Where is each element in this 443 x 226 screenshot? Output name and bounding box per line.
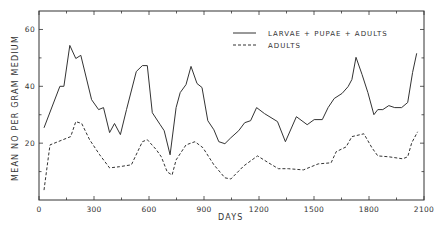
plot-frame — [39, 11, 424, 200]
y-tick-label: 60 — [25, 25, 35, 34]
legend-label-total: LARVAE + PUPAE + ADULTS — [268, 30, 388, 38]
x-tick-label: 1200 — [249, 205, 269, 214]
x-tick-label: 900 — [196, 205, 211, 214]
legend: LARVAE + PUPAE + ADULTS ADULTS — [233, 30, 388, 50]
series-line-total — [44, 45, 417, 154]
y-tick-label: 40 — [25, 82, 35, 91]
legend-label-adults: ADULTS — [268, 42, 301, 50]
series-line-adults — [44, 122, 418, 191]
x-tick-label: 600 — [141, 205, 156, 214]
plot-border — [39, 11, 424, 200]
x-tick-label: 300 — [86, 205, 101, 214]
axis-ticks — [39, 11, 424, 200]
series-lines — [44, 45, 418, 190]
x-tick-label: 0 — [36, 205, 41, 214]
x-axis-title: DAYS — [218, 213, 244, 222]
x-tick-label: 2100 — [414, 205, 434, 214]
x-tick-label: 1500 — [304, 205, 324, 214]
axis-tick-labels: 03006009001200150018002100204060 — [25, 25, 434, 214]
y-tick-label: 20 — [25, 139, 35, 148]
y-axis-title: MEAN NO PER GRAM MEDIUM — [11, 35, 20, 181]
line-chart: 03006009001200150018002100204060 LARVAE … — [0, 0, 443, 226]
x-tick-label: 1800 — [359, 205, 379, 214]
